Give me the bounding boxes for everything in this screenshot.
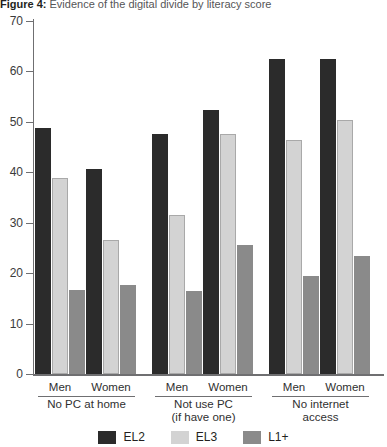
x-axis-group-label: No PC at home bbox=[27, 398, 147, 411]
y-axis-tick bbox=[26, 122, 34, 123]
y-axis-tick-label: 10 bbox=[0, 318, 23, 330]
legend-label: L1+ bbox=[268, 431, 288, 444]
bar-el3-men-g2 bbox=[169, 215, 185, 374]
y-axis-tick bbox=[26, 374, 34, 375]
bar-el3-men-g1 bbox=[52, 178, 68, 374]
plot-area bbox=[34, 21, 384, 374]
y-axis-tick-label: 30 bbox=[0, 217, 23, 229]
x-axis-category-label: Women bbox=[198, 381, 258, 394]
bar-l1plus-women-g2 bbox=[237, 245, 253, 374]
y-axis-tick bbox=[26, 21, 34, 22]
legend-label: EL2 bbox=[123, 431, 144, 444]
legend-swatch-icon bbox=[98, 431, 116, 444]
bar-el3-women-g2 bbox=[220, 134, 236, 374]
group-label-line-2: access bbox=[261, 411, 381, 424]
bar-el3-men-g3 bbox=[286, 140, 302, 374]
chart-legend: EL2EL3L1+ bbox=[0, 428, 387, 447]
group-underline bbox=[272, 396, 369, 397]
bar-el3-women-g1 bbox=[103, 240, 119, 374]
x-axis-group-label: No internetaccess bbox=[261, 398, 381, 424]
bar-l1plus-women-g1 bbox=[120, 285, 136, 374]
legend-swatch-icon bbox=[243, 431, 261, 444]
group-label-line-1: No PC at home bbox=[27, 398, 147, 411]
bar-el2-women-g1 bbox=[86, 169, 102, 374]
legend-swatch-icon bbox=[171, 431, 189, 444]
legend-item-l1plus: L1+ bbox=[243, 431, 288, 444]
y-axis-tick-label: 50 bbox=[0, 116, 23, 128]
group-label-line-1: No internet bbox=[261, 398, 381, 411]
group-underline bbox=[38, 396, 135, 397]
y-axis-tick-label: 20 bbox=[0, 267, 23, 279]
legend-label: EL3 bbox=[196, 431, 217, 444]
bar-el3-women-g3 bbox=[337, 120, 353, 374]
group-label-line-1: Not use PC bbox=[144, 398, 264, 411]
bar-el2-men-g2 bbox=[152, 134, 168, 374]
bar-el2-men-g1 bbox=[35, 128, 51, 374]
y-axis-tick-label: 70 bbox=[0, 15, 23, 27]
y-axis-tick bbox=[26, 172, 34, 173]
y-axis-tick-label: 40 bbox=[0, 166, 23, 178]
y-axis-tick bbox=[26, 273, 34, 274]
y-axis-tick-label: 60 bbox=[0, 65, 23, 77]
bar-chart: 010203040506070 MenWomenNo PC at homeMen… bbox=[0, 0, 387, 447]
y-axis-tick bbox=[26, 223, 34, 224]
bar-l1plus-women-g3 bbox=[354, 256, 370, 374]
bar-el2-women-g2 bbox=[203, 110, 219, 374]
y-axis-tick bbox=[26, 71, 34, 72]
y-axis-tick bbox=[26, 324, 34, 325]
y-axis-tick-label: 0 bbox=[0, 368, 23, 380]
bar-el2-women-g3 bbox=[320, 59, 336, 374]
x-axis-category-label: Women bbox=[315, 381, 375, 394]
bar-l1plus-men-g2 bbox=[186, 291, 202, 374]
bar-l1plus-men-g1 bbox=[69, 290, 85, 374]
group-label-line-2: (if have one) bbox=[144, 411, 264, 424]
bar-l1plus-men-g3 bbox=[303, 276, 319, 374]
legend-item-el3: EL3 bbox=[171, 431, 217, 444]
x-axis-category-label: Women bbox=[81, 381, 141, 394]
bar-el2-men-g3 bbox=[269, 59, 285, 374]
legend-item-el2: EL2 bbox=[98, 431, 144, 444]
x-axis-group-label: Not use PC(if have one) bbox=[144, 398, 264, 424]
x-axis-line bbox=[33, 374, 384, 376]
group-underline bbox=[155, 396, 252, 397]
